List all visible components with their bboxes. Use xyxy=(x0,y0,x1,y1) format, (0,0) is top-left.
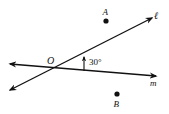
geometry-diagram: ℓ m O 30° A B xyxy=(0,0,169,114)
line-m-label: m xyxy=(150,78,157,88)
line-m xyxy=(10,64,156,76)
angle-label: 30° xyxy=(89,57,102,67)
point-a xyxy=(103,18,108,23)
point-b xyxy=(114,91,119,96)
intersection-label-o: O xyxy=(47,55,54,66)
line-l-label: ℓ xyxy=(154,10,158,21)
line-l xyxy=(10,18,152,90)
point-b-label: B xyxy=(114,99,120,109)
point-a-label: A xyxy=(102,7,109,17)
